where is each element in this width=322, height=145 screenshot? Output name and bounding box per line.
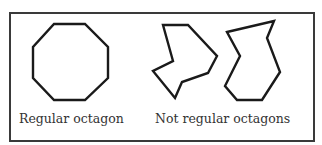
irregular-octagon-shape-2 (225, 21, 280, 100)
regular-octagon-label: Regular octagon (19, 111, 124, 126)
irregular-octagon-shape-1 (153, 25, 217, 98)
regular-octagon-shape (33, 24, 108, 100)
irregular-octagons-label: Not regular octagons (155, 111, 290, 126)
